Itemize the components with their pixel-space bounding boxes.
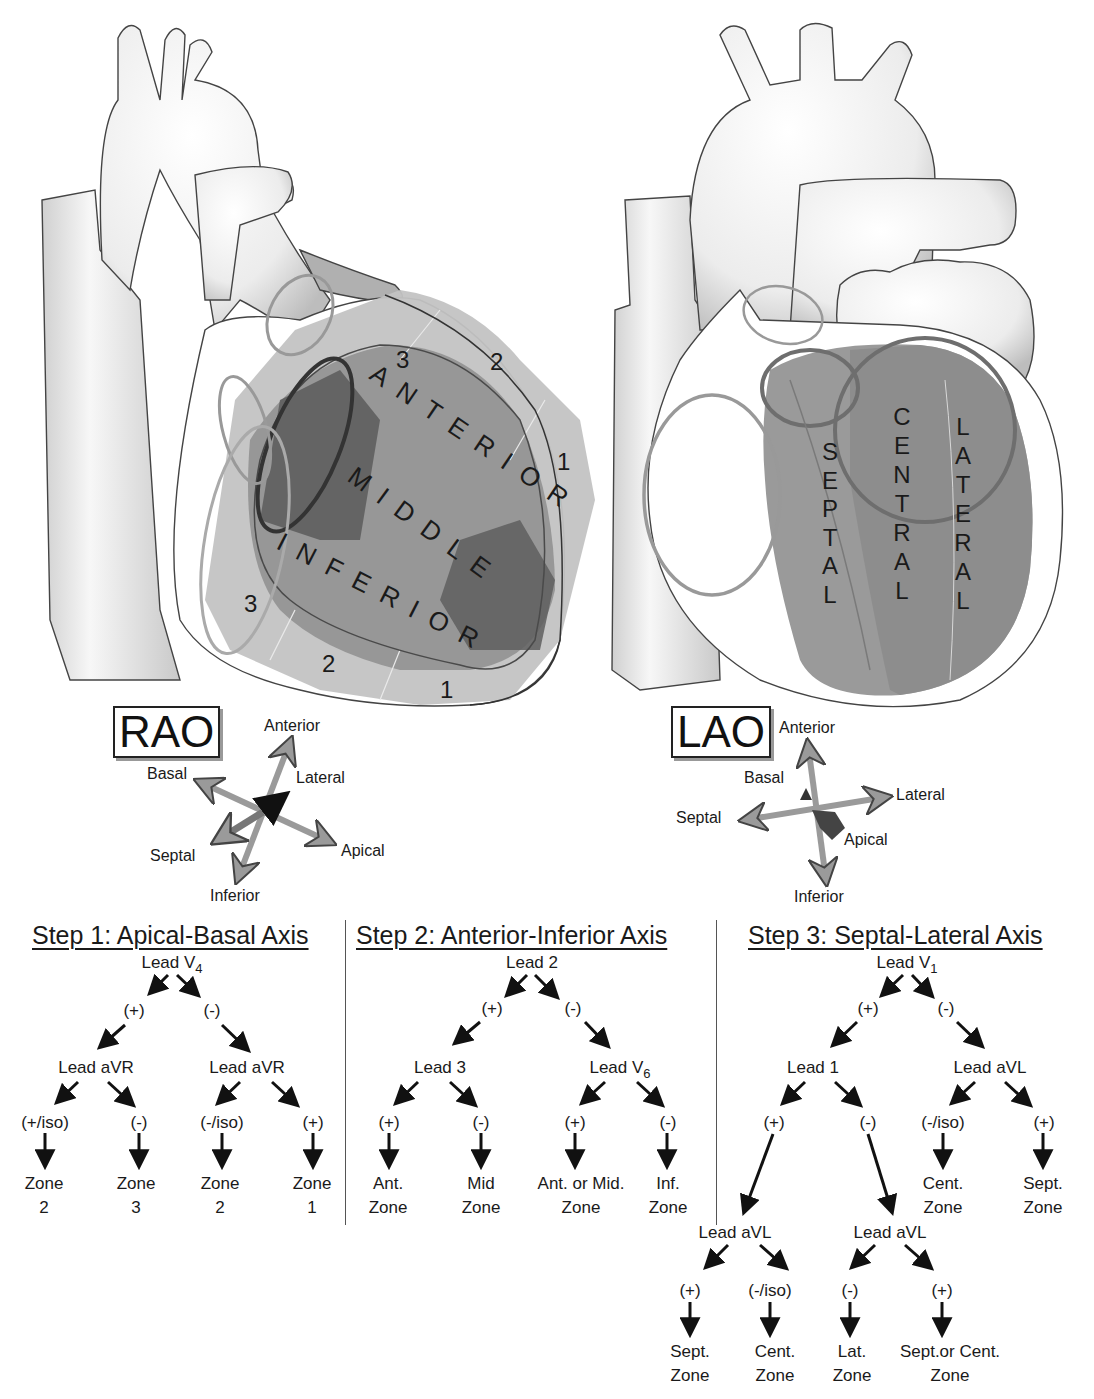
step2-zone-ant: Ant.Zone — [369, 1172, 408, 1220]
step2-branch-pos: (+) — [481, 1000, 502, 1017]
step1-lead-avr-right: Lead aVR — [209, 1059, 285, 1076]
step1-result-4: (+) — [302, 1114, 323, 1131]
zone-top-3: 3 — [396, 346, 409, 373]
lao-basal-label: Basal — [744, 769, 784, 787]
step2-branch-neg: (-) — [565, 1000, 582, 1017]
lao-septal-label: Septal — [676, 809, 721, 827]
rao-inferior-label: Inferior — [210, 887, 260, 905]
step1-title: Step 1: Apical-Basal Axis — [32, 921, 309, 950]
step1-zone-1: Zone2 — [25, 1172, 64, 1220]
step1-lead-avr-left: Lead aVR — [58, 1059, 134, 1076]
step3-lead-avl: Lead aVL — [954, 1059, 1027, 1076]
divider-step1-step2 — [345, 920, 346, 1225]
step3-lead-avl-right: Lead aVL — [854, 1224, 927, 1241]
zone-bottom-3: 3 — [244, 590, 257, 617]
lao-central-column: CENTRAL — [892, 402, 912, 605]
step3-l2-result-2: (-) — [860, 1114, 877, 1131]
step2-root-lead: Lead 2 — [506, 954, 558, 971]
lao-inferior-label: Inferior — [794, 888, 844, 906]
lao-apical-label: Apical — [844, 831, 888, 849]
lao-view-label: LAO — [671, 706, 771, 758]
divider-step2-step3 — [716, 920, 717, 1225]
step3-l2-result-1: (+) — [763, 1114, 784, 1131]
step1-zone-4: Zone1 — [293, 1172, 332, 1220]
step2-result-4: (-) — [660, 1114, 677, 1131]
rao-septal-label: Septal — [150, 847, 195, 865]
step3-l3-result-1: (+) — [679, 1282, 700, 1299]
flowchart-arrows — [45, 975, 1043, 1334]
step2-zone-mid: MidZone — [462, 1172, 501, 1220]
rao-lateral-label: Lateral — [296, 769, 345, 787]
rao-compass — [200, 742, 330, 878]
step3-l3-zone-sept-or-cent: Sept.or Cent.Zone — [900, 1340, 1000, 1388]
step3-lead-1: Lead 1 — [787, 1059, 839, 1076]
step1-branch-pos: (+) — [123, 1002, 144, 1019]
zone-top-2: 2 — [490, 348, 503, 375]
rao-view-label: RAO — [113, 706, 220, 758]
step3-l3-result-3: (-) — [842, 1282, 859, 1299]
step1-zone-2: Zone3 — [117, 1172, 156, 1220]
step1-result-3: (-/iso) — [200, 1114, 243, 1131]
step3-l2-zone-sept: Sept.Zone — [1023, 1172, 1063, 1220]
lao-compass — [745, 745, 886, 880]
step1-root-lead: Lead V4 — [141, 954, 202, 975]
step3-l3-result-2: (-/iso) — [748, 1282, 791, 1299]
rao-anterior-label: Anterior — [264, 717, 320, 735]
step1-zone-3: Zone2 — [201, 1172, 240, 1220]
lao-anterior-label: Anterior — [779, 719, 835, 737]
zone-bottom-1: 1 — [440, 676, 453, 703]
rao-basal-label: Basal — [147, 765, 187, 783]
step2-zone-ant-or-mid: Ant. or Mid.Zone — [538, 1172, 625, 1220]
step3-l2-result-3: (-/iso) — [921, 1114, 964, 1131]
step3-l3-result-4: (+) — [931, 1282, 952, 1299]
rao-apical-label: Apical — [341, 842, 385, 860]
step3-l2-zone-cent: Cent.Zone — [923, 1172, 964, 1220]
step3-title: Step 3: Septal-Lateral Axis — [748, 921, 1043, 950]
step2-title: Step 2: Anterior-Inferior Axis — [356, 921, 667, 950]
step2-result-1: (+) — [378, 1114, 399, 1131]
step3-lead-avl-left: Lead aVL — [699, 1224, 772, 1241]
step2-zone-inf: Inf.Zone — [649, 1172, 688, 1220]
step3-l2-result-4: (+) — [1033, 1114, 1054, 1131]
step1-result-2: (-) — [131, 1114, 148, 1131]
step2-lead-v6: Lead V6 — [589, 1059, 650, 1080]
step3-l3-zone-cent: Cent.Zone — [755, 1340, 796, 1388]
step2-lead-3: Lead 3 — [414, 1059, 466, 1076]
lao-lateral-label: Lateral — [896, 786, 945, 804]
step3-root-lead: Lead V1 — [876, 954, 937, 975]
step1-branch-neg: (-) — [204, 1002, 221, 1019]
step2-result-3: (+) — [564, 1114, 585, 1131]
zone-bottom-2: 2 — [322, 650, 335, 677]
zone-top-1: 1 — [557, 448, 570, 475]
step3-l3-zone-lat: Lat.Zone — [833, 1340, 872, 1388]
rao-heart — [42, 26, 595, 707]
step2-result-2: (-) — [473, 1114, 490, 1131]
step3-branch-pos: (+) — [857, 1000, 878, 1017]
step3-l3-zone-sept: Sept.Zone — [670, 1340, 710, 1388]
step3-branch-neg: (-) — [938, 1000, 955, 1017]
lao-lateral-column: LATERAL — [953, 412, 973, 615]
step1-result-1: (+/iso) — [21, 1114, 69, 1131]
figure: ANTERIOR MIDDLE INFERIOR 3 2 1 3 2 1 — [0, 0, 1094, 1399]
lao-septal-column: SEPTAL — [820, 438, 840, 609]
